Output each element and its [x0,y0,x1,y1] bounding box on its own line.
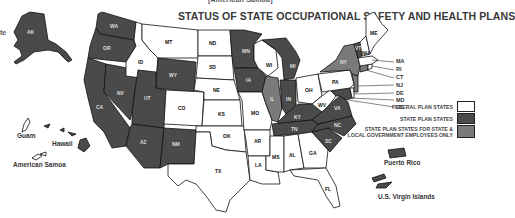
legend-swatch-state-plan [457,113,475,124]
label-ND: ND [209,40,217,46]
label-IL: IL [270,96,274,102]
label-puerto-rico: Puerto Rico [384,159,420,166]
label-OK: OK [223,133,231,139]
state-FL [290,168,340,208]
label-MI: MI [290,63,296,69]
label-GA: GA [309,150,317,156]
territory-guam [22,118,30,132]
label-AL: AL [289,152,296,158]
label-american-samoa: American Samoa [13,161,66,168]
legend-label-public-only: STATE PLAN STATES FOR STATE & LOCAL GOVE… [348,126,454,138]
label-IN: IN [286,96,291,102]
territory-puerto-rico [388,148,406,158]
label-AZ: AZ [140,139,147,145]
label-FL: FL [325,186,331,192]
label-AK: AK [27,29,35,35]
territory-hawaii-islands [44,124,90,152]
label-AR: AR [254,138,262,144]
legend-label-federal: FEDERAL PLAN STATES [392,104,453,110]
label-SC: SC [325,138,332,144]
label-OH: OH [305,87,313,93]
label-TN: TN [291,126,298,132]
legend-swatch-federal [457,101,475,112]
label-MN: MN [242,48,250,54]
label-OR: OR [103,45,111,51]
label-MT: MT [165,39,172,45]
label-CO: CO [178,105,186,111]
label-NY: NY [340,59,348,65]
legend-label-line2: LOCAL GOVERNMENT EMPLOYEES ONLY [348,132,454,138]
label-guam: Guam [17,132,35,139]
label-UT: UT [144,95,151,101]
callout-RI: RI [396,66,402,72]
label-WV: WV [318,102,327,108]
state-NM [160,128,196,168]
label-WI: WI [266,62,273,68]
callout-MA: MA [396,58,405,64]
callout-CT: CT [396,74,403,80]
label-WY: WY [169,72,178,78]
label-LA: LA [255,162,262,168]
label-NM: NM [172,141,180,147]
label-IA: IA [246,77,251,83]
label-NC: NC [334,122,342,128]
label-CA: CA [96,104,104,110]
state-AK [14,12,72,64]
label-hawaii: Hawaii [52,140,73,147]
legend-item-public-only: STATE PLAN STATES FOR STATE & LOCAL GOVE… [348,125,476,138]
label-NE: NE [213,87,221,93]
state-AZ [126,124,164,168]
label-SD: SD [209,64,216,70]
label-TX: TX [215,168,222,174]
label-PA: PA [332,79,339,85]
label-VA: VA [334,105,341,111]
callout-NJ: NJ [396,82,403,88]
label-KY: KY [294,114,302,120]
territory-virgin-islands [372,174,392,188]
legend-item-state-plan: STATE PLAN STATES [400,113,475,124]
state-MA [358,56,378,66]
label-KS: KS [218,111,226,117]
label-NH: NH [362,50,370,56]
label-WA: WA [110,23,118,29]
legend-item-federal: FEDERAL PLAN STATES [392,101,475,112]
label-VT: VT [355,45,361,51]
callout-DE: DE [396,90,404,96]
label-MO: MO [251,110,259,116]
label-ID: ID [138,59,143,65]
legend-label-state-plan: STATE PLAN STATES [400,116,453,122]
legend-swatch-public-only [457,125,475,138]
label-NV: NV [117,90,125,96]
label-virgin-islands: U.S. Virgin Islands [378,193,435,200]
label-ME: ME [370,30,378,36]
label-MS: MS [272,154,280,160]
territory-american-samoa [32,152,46,160]
